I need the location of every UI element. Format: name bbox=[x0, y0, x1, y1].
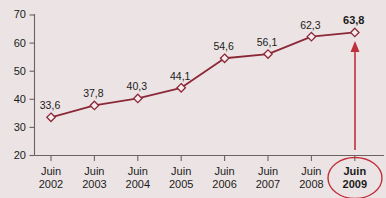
x-tick-label-bottom: 2008 bbox=[299, 178, 323, 190]
data-series: 33,637,840,344,154,656,162,363,8 bbox=[40, 14, 365, 121]
series-markers bbox=[47, 28, 359, 121]
x-tick-label-bottom: 2004 bbox=[126, 178, 150, 190]
x-tick-label-top: Juin bbox=[171, 165, 191, 177]
data-point-marker bbox=[90, 101, 98, 109]
data-point-marker bbox=[264, 50, 272, 58]
data-point-label: 62,3 bbox=[300, 19, 321, 31]
x-tick-label-bottom: 2007 bbox=[256, 178, 280, 190]
y-tick-label: 20 bbox=[14, 149, 26, 161]
data-point-label: 56,1 bbox=[257, 36, 278, 48]
y-axis-ticks bbox=[30, 15, 35, 156]
x-tick-label-bottom: 2005 bbox=[169, 178, 193, 190]
y-tick-label: 30 bbox=[14, 121, 26, 133]
chart-container: 203040506070 Juin2002Juin2003Juin2004Jui… bbox=[0, 0, 386, 198]
callout-arrow-head bbox=[351, 41, 360, 52]
x-tick-label-top: Juin bbox=[41, 165, 61, 177]
x-tick-label-top: Juin bbox=[128, 165, 148, 177]
data-point-label: 40,3 bbox=[127, 80, 148, 92]
x-tick-label-bottom: 2002 bbox=[39, 178, 63, 190]
series-value-labels: 33,637,840,344,154,656,162,363,8 bbox=[40, 14, 365, 111]
x-tick-label-top: Juin bbox=[343, 165, 366, 177]
x-axis: Juin2002Juin2003Juin2004Juin2005Juin2006… bbox=[35, 156, 385, 191]
y-axis: 203040506070 bbox=[14, 8, 35, 161]
x-tick-label-bottom: 2006 bbox=[212, 178, 236, 190]
y-tick-label: 40 bbox=[14, 93, 26, 105]
data-point-label: 63,8 bbox=[343, 14, 364, 26]
data-point-label: 33,6 bbox=[40, 99, 61, 111]
data-point-marker bbox=[307, 32, 315, 40]
x-axis-ticks bbox=[51, 156, 355, 162]
y-tick-label: 70 bbox=[14, 8, 26, 20]
y-tick-label: 60 bbox=[14, 37, 26, 49]
x-axis-tick-labels: Juin2002Juin2003Juin2004Juin2005Juin2006… bbox=[39, 165, 367, 190]
data-point-label: 44,1 bbox=[170, 70, 191, 82]
data-point-label: 37,8 bbox=[83, 87, 104, 99]
x-tick-label-top: Juin bbox=[301, 165, 321, 177]
data-point-marker bbox=[47, 113, 55, 121]
x-tick-label-bottom: 2009 bbox=[343, 178, 367, 190]
y-axis-tick-labels: 203040506070 bbox=[14, 8, 26, 161]
x-tick-label-top: Juin bbox=[84, 165, 104, 177]
y-tick-label: 50 bbox=[14, 65, 26, 77]
x-tick-label-bottom: 2003 bbox=[82, 178, 106, 190]
x-tick-label-top: Juin bbox=[215, 165, 235, 177]
data-point-marker bbox=[134, 94, 142, 102]
data-point-marker bbox=[351, 28, 359, 36]
data-point-label: 54,6 bbox=[213, 40, 234, 52]
x-tick-label-top: Juin bbox=[258, 165, 278, 177]
line-chart: 203040506070 Juin2002Juin2003Juin2004Jui… bbox=[0, 0, 386, 198]
